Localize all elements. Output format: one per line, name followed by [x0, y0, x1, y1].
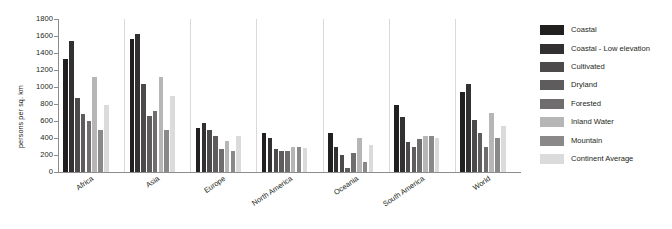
- y-tick-label: 0: [49, 166, 53, 177]
- y-tick-label: 1800: [36, 13, 53, 24]
- bar: [435, 138, 440, 172]
- legend-label: Inland Water: [571, 117, 614, 127]
- y-tick-label: 200: [40, 149, 53, 160]
- bar: [303, 148, 308, 172]
- legend-item[interactable]: Forested: [540, 95, 672, 113]
- bar: [202, 123, 207, 172]
- bar: [274, 149, 279, 172]
- legend-item[interactable]: Coastal - Low elevation: [540, 39, 672, 57]
- bar: [291, 147, 296, 173]
- bar: [135, 34, 140, 172]
- bar: [231, 151, 236, 172]
- bar: [262, 133, 267, 172]
- legend-item[interactable]: Inland Water: [540, 113, 672, 131]
- legend-item[interactable]: Mountain: [540, 131, 672, 149]
- bar: [236, 136, 241, 172]
- legend-label: Forested: [571, 99, 601, 109]
- legend-label: Continent Average: [571, 154, 633, 164]
- x-axis-labels: AfricaAsiaEuropeNorth AmericaOceaniaSout…: [58, 174, 521, 229]
- bar: [196, 128, 201, 172]
- bar: [484, 147, 489, 172]
- y-tick-label: 1400: [36, 47, 53, 58]
- bar: [460, 92, 465, 172]
- legend-swatch: [540, 99, 564, 109]
- legend-label: Mountain: [571, 136, 602, 146]
- bar: [501, 126, 506, 172]
- bar: [406, 142, 411, 172]
- x-axis-line: [58, 172, 521, 173]
- bar: [268, 138, 273, 172]
- bar: [69, 41, 74, 172]
- legend-swatch: [540, 25, 564, 35]
- bar: [285, 151, 290, 172]
- legend-item[interactable]: Cultivated: [540, 58, 672, 76]
- legend-item[interactable]: Continent Average: [540, 150, 672, 168]
- bar: [412, 147, 417, 173]
- bar: [104, 105, 109, 172]
- bar: [164, 130, 169, 173]
- legend-swatch: [540, 62, 564, 72]
- bar: [429, 136, 434, 172]
- bar: [63, 59, 68, 172]
- bar: [400, 117, 405, 172]
- bar: [369, 145, 374, 172]
- legend-swatch: [540, 117, 564, 127]
- bar: [147, 116, 152, 172]
- bar: [351, 153, 356, 172]
- legend-swatch: [540, 136, 564, 146]
- y-tick-label: 1600: [36, 30, 53, 41]
- bar: [75, 98, 80, 172]
- bar: [357, 138, 362, 172]
- bar: [466, 84, 471, 172]
- y-tick-label: 1200: [36, 64, 53, 75]
- legend-swatch: [540, 44, 564, 54]
- y-tick-label: 400: [40, 132, 53, 143]
- bar: [207, 130, 212, 173]
- chart-legend: CoastalCoastal - Low elevationCultivated…: [540, 21, 672, 168]
- legend-item[interactable]: Coastal: [540, 21, 672, 39]
- bar: [363, 162, 368, 172]
- legend-label: Dryland: [571, 80, 597, 90]
- bar: [98, 130, 103, 172]
- plot-area: 020040060080010001200140016001800: [58, 19, 521, 172]
- y-tick-label: 600: [40, 115, 53, 126]
- bar: [81, 114, 86, 172]
- legend-swatch: [540, 154, 564, 164]
- bar: [153, 111, 158, 172]
- bar: [219, 149, 224, 172]
- bar: [279, 151, 284, 172]
- y-tick-mark: [54, 172, 59, 173]
- legend-label: Coastal - Low elevation: [571, 44, 650, 54]
- legend-item[interactable]: Dryland: [540, 76, 672, 94]
- bar: [87, 121, 92, 172]
- bar: [92, 77, 97, 172]
- bar: [297, 147, 302, 173]
- legend-label: Coastal: [571, 25, 597, 35]
- bar: [495, 138, 500, 172]
- bar: [472, 120, 477, 172]
- y-tick-label: 1000: [36, 81, 53, 92]
- bar: [394, 105, 399, 172]
- bar: [141, 84, 146, 172]
- bar: [417, 139, 422, 172]
- bar: [328, 133, 333, 172]
- bar: [340, 155, 345, 172]
- bar: [478, 133, 483, 172]
- bar: [334, 147, 339, 173]
- chart-container: persons per sq. km 020040060080010001200…: [0, 0, 672, 229]
- bar: [159, 77, 164, 172]
- y-tick-label: 800: [40, 98, 53, 109]
- bar: [130, 39, 135, 172]
- x-axis-label: Africa: [4, 174, 96, 229]
- bar: [423, 136, 428, 172]
- bar: [213, 136, 218, 172]
- legend-label: Cultivated: [571, 62, 605, 72]
- bar: [225, 141, 230, 172]
- y-axis-title: persons per sq. km: [14, 0, 28, 148]
- legend-swatch: [540, 80, 564, 90]
- bar: [170, 96, 175, 173]
- bar: [345, 168, 350, 172]
- bars-layer: [58, 19, 521, 172]
- bar: [489, 113, 494, 173]
